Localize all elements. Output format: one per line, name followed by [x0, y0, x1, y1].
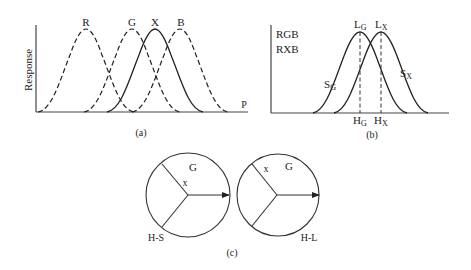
point-label-x-right: x — [264, 163, 269, 174]
label-r: R — [82, 16, 90, 28]
slope-label-sx: SX — [400, 67, 412, 81]
hue-wheel-hs: G x H-S — [146, 153, 230, 243]
label-g: G — [128, 16, 136, 28]
caption-a: (a) — [135, 127, 146, 139]
peak-label-lg: LG — [354, 18, 367, 32]
hue-wheel-hl: G x H-L — [237, 154, 319, 243]
spoke-lower-left — [162, 195, 188, 227]
hue-label-hg: HG — [353, 114, 367, 128]
color-response-diagram: R G X B P Response (a) RGB RXB LG LX SG … — [0, 0, 471, 270]
sector-label-g-right: G — [285, 160, 293, 172]
hue-label-hx: HX — [374, 114, 388, 128]
label-b: B — [177, 16, 184, 28]
x-axis-label-p: P — [241, 99, 247, 110]
mode-label-hl: H-L — [301, 232, 318, 243]
label-x: X — [151, 16, 159, 28]
legend-rxb: RXB — [276, 43, 299, 55]
panel-a: R G X B P Response (a) — [22, 16, 248, 139]
sector-label-g-left: G — [189, 161, 197, 173]
panel-b: RGB RXB LG LX SG SX HG HX (b) — [271, 18, 449, 141]
point-label-x-left: x — [183, 177, 188, 188]
spoke-lower-left — [252, 195, 277, 226]
mode-label-hs: H-S — [148, 232, 164, 243]
caption-c: (c) — [226, 247, 237, 259]
slope-label-sg: SG — [324, 78, 336, 92]
legend-rgb: RGB — [276, 28, 299, 40]
panel-c: G x H-S G x H-L (c) — [146, 153, 319, 259]
curve-b — [132, 29, 228, 112]
y-axis-label-response: Response — [22, 49, 34, 91]
caption-b: (b) — [366, 129, 378, 141]
peak-label-lx: LX — [375, 18, 388, 32]
curve-r — [38, 29, 134, 112]
